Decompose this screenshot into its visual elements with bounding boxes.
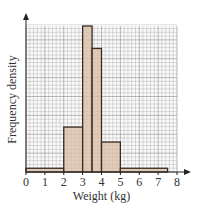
y-axis-label-text: Frequency density — [5, 55, 20, 143]
x-tick-label: 2 — [58, 175, 70, 190]
histogram-bar — [26, 168, 64, 172]
histogram-bar — [120, 168, 167, 172]
y-axis-label: Frequency density — [4, 26, 20, 172]
histogram-bar — [92, 48, 101, 172]
histogram-bar — [83, 26, 92, 172]
x-tick-label: 1 — [39, 175, 51, 190]
histogram-bar — [102, 142, 121, 172]
x-tick-label: 8 — [171, 175, 183, 190]
x-axis-arrow-icon — [184, 169, 191, 175]
x-tick-label: 6 — [133, 175, 145, 190]
y-axis-arrow-icon — [23, 13, 29, 20]
x-tick-label: 3 — [77, 175, 89, 190]
x-tick-label: 7 — [152, 175, 164, 190]
x-tick-label: 4 — [96, 175, 108, 190]
x-tick-label: 5 — [114, 175, 126, 190]
x-tick-label: 0 — [20, 175, 32, 190]
histogram-bar — [64, 127, 83, 172]
x-axis-label: Weight (kg) — [26, 189, 177, 204]
